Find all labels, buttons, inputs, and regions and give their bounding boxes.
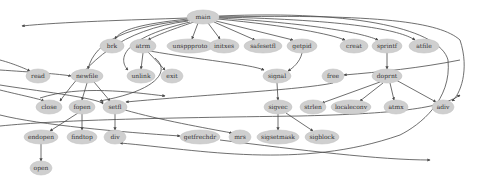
node-label: strlen	[304, 103, 322, 110]
node-label: sprintf	[377, 42, 398, 50]
node-label: getfrechdr	[184, 133, 217, 141]
node-label: newfile	[76, 72, 98, 79]
node-sigblock[interactable]: sigblock	[305, 130, 339, 144]
edge-arrow	[141, 53, 143, 69]
node-creat[interactable]: creat	[340, 39, 368, 53]
node-strlen[interactable]: strlen	[300, 100, 326, 114]
node-label: getpid	[292, 42, 312, 50]
node-label: main	[195, 13, 210, 20]
node-newfile[interactable]: newfile	[71, 69, 103, 83]
node-label: sigblock	[309, 133, 335, 141]
node-unlink[interactable]: unlink	[127, 69, 155, 83]
node-sigsetmask[interactable]: sigsetmask	[257, 130, 299, 144]
edge-arrow	[214, 22, 255, 40]
edge-arrow	[277, 83, 278, 100]
node-initxes[interactable]: initxes	[209, 39, 239, 53]
node-getfrechdr[interactable]: getfrechdr	[180, 130, 220, 144]
node-unsppproto[interactable]: unsppproto	[167, 39, 213, 53]
edge-arrow	[192, 23, 198, 39]
node-label: safesetfl	[250, 42, 275, 49]
edge-arrow	[288, 53, 302, 71]
edge-arrow	[0, 60, 30, 71]
node-label: initxes	[214, 42, 234, 49]
node-signal[interactable]: signal	[263, 69, 291, 83]
edge-arrow	[360, 83, 383, 101]
node-open[interactable]: open	[30, 161, 52, 175]
node-layer: mainbrkatrmunsppprotoinitxessafesetflget…	[24, 10, 454, 175]
node-label: sigsetmask	[261, 133, 295, 141]
node-atfile[interactable]: atfile	[409, 39, 439, 53]
edge-arrow	[126, 83, 333, 102]
node-label: adiv	[437, 103, 450, 110]
node-fopen[interactable]: fopen	[69, 100, 95, 114]
node-label: div	[110, 133, 120, 140]
node-label: doprnt	[377, 72, 398, 80]
node-adiv[interactable]: adiv	[432, 100, 454, 114]
call-graph-diagram: mainbrkatrmunsppprotoinitxessafesetflget…	[0, 0, 478, 185]
node-brk[interactable]: brk	[100, 39, 124, 53]
node-atmx[interactable]: atmx	[384, 100, 408, 114]
node-safesetfl[interactable]: safesetfl	[244, 39, 282, 53]
node-label: mrs	[234, 133, 246, 140]
node-label: brk	[107, 42, 118, 49]
edge-arrow	[396, 80, 436, 102]
node-setfl[interactable]: setfl	[103, 100, 127, 114]
edge-arrow	[94, 82, 110, 101]
edge-arrow	[148, 52, 165, 70]
node-doprnt[interactable]: doprnt	[372, 69, 402, 83]
node-label: atrm	[136, 42, 151, 49]
node-sprintf[interactable]: sprintf	[372, 39, 402, 53]
edge-arrow	[208, 23, 220, 39]
node-label: signal	[268, 72, 286, 80]
node-label: localeconv	[335, 103, 368, 110]
edge-arrow	[125, 110, 232, 133]
node-localeconv[interactable]: localeconv	[331, 100, 371, 114]
node-label: sigvec	[268, 103, 288, 111]
edge-arrow	[216, 21, 293, 40]
node-exit[interactable]: exit	[161, 69, 183, 83]
node-close[interactable]: close	[36, 100, 62, 114]
node-label: open	[34, 164, 49, 172]
node-label: atfile	[416, 42, 432, 49]
node-mrs[interactable]: mrs	[229, 130, 251, 144]
node-main[interactable]: main	[187, 10, 219, 24]
node-div[interactable]: div	[104, 130, 126, 144]
edge-arrow	[0, 90, 44, 101]
node-label: endopen	[28, 133, 54, 141]
node-getpid[interactable]: getpid	[287, 39, 317, 53]
edge-arrow	[219, 16, 464, 101]
node-atrm[interactable]: atrm	[130, 39, 156, 53]
node-sigvec[interactable]: sigvec	[264, 100, 292, 114]
node-findtop[interactable]: findtop	[67, 130, 97, 144]
node-endopen[interactable]: endopen	[24, 130, 58, 144]
node-label: findtop	[71, 133, 93, 141]
node-label: atmx	[388, 103, 404, 110]
node-label: exit	[166, 72, 178, 79]
edge-arrow	[390, 83, 394, 100]
node-label: unlink	[131, 72, 150, 79]
node-label: free	[327, 72, 340, 79]
node-label: unsppproto	[173, 42, 208, 50]
edge-arrow	[150, 51, 264, 70]
node-label: setfl	[108, 103, 121, 110]
edge-arrow	[344, 60, 460, 75]
node-label: creat	[346, 42, 362, 49]
edge-arrow	[219, 17, 415, 40]
node-label: read	[31, 72, 45, 79]
node-label: close	[41, 103, 57, 110]
node-read[interactable]: read	[26, 69, 50, 83]
node-label: fopen	[73, 103, 90, 111]
node-free[interactable]: free	[322, 69, 344, 83]
